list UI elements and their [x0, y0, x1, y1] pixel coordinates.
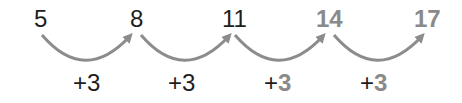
- arrow-1: [42, 35, 130, 60]
- number-5: 17: [414, 6, 441, 32]
- step-label-1: +3: [73, 70, 100, 96]
- arrow-4: [334, 35, 422, 60]
- number-3: 11: [222, 6, 247, 32]
- number-1: 5: [34, 6, 47, 32]
- number-4: 14: [316, 6, 343, 32]
- step-label-2: +3: [168, 70, 195, 96]
- arrow-3: [235, 35, 323, 60]
- arrow-2: [141, 35, 229, 60]
- step-label-4: +3: [360, 70, 387, 96]
- step-label-3: +3: [264, 70, 291, 96]
- number-2: 8: [130, 6, 143, 32]
